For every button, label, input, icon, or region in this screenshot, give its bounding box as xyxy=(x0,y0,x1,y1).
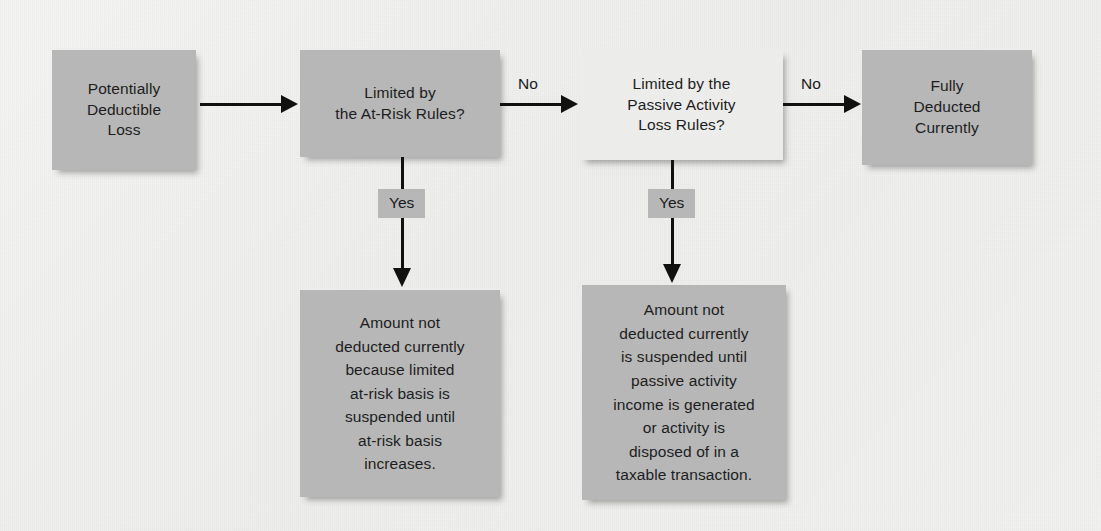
flowchart-figure: Potentially Deductible Loss Limited by t… xyxy=(0,0,1101,531)
edge-label-passive-no-text: No xyxy=(801,75,821,92)
edge-passive-no-line xyxy=(783,103,845,106)
node-at-risk-suspended-label: Amount not deducted currently because li… xyxy=(329,311,470,476)
edge-start-to-at-risk-line xyxy=(200,103,282,106)
edge-label-at-risk-yes-text: Yes xyxy=(389,194,414,211)
node-at-risk-suspended: Amount not deducted currently because li… xyxy=(300,290,500,497)
node-fully-deducted-currently: Fully Deducted Currently xyxy=(862,50,1032,165)
node-at-risk-test-label: Limited by the At-Risk Rules? xyxy=(329,83,470,125)
edge-start-to-at-risk-arrowhead xyxy=(281,95,298,113)
edge-passive-no-arrowhead xyxy=(844,95,861,113)
node-passive-activity-test: Limited by the Passive Activity Loss Rul… xyxy=(580,50,783,160)
node-passive-suspended-label: Amount not deducted currently is suspend… xyxy=(607,298,760,486)
edge-label-passive-yes-text: Yes xyxy=(659,194,684,211)
node-fully-deducted-currently-label: Fully Deducted Currently xyxy=(907,76,986,139)
node-passive-suspended: Amount not deducted currently is suspend… xyxy=(582,285,786,500)
edge-passive-yes-arrowhead xyxy=(663,264,681,283)
edge-label-at-risk-no-text: No xyxy=(518,75,538,92)
edge-at-risk-yes-arrowhead xyxy=(393,268,411,287)
edge-label-passive-no: No xyxy=(801,76,821,92)
node-passive-activity-test-label: Limited by the Passive Activity Loss Rul… xyxy=(621,74,741,137)
node-potentially-deductible-loss: Potentially Deductible Loss xyxy=(52,50,196,170)
edge-at-risk-no-line xyxy=(500,103,562,106)
node-at-risk-test: Limited by the At-Risk Rules? xyxy=(300,50,500,157)
edge-label-passive-yes: Yes xyxy=(648,189,695,218)
edge-at-risk-no-arrowhead xyxy=(561,95,578,113)
node-potentially-deductible-loss-label: Potentially Deductible Loss xyxy=(81,79,167,142)
edge-label-at-risk-no: No xyxy=(518,76,538,92)
edge-label-at-risk-yes: Yes xyxy=(378,189,425,218)
